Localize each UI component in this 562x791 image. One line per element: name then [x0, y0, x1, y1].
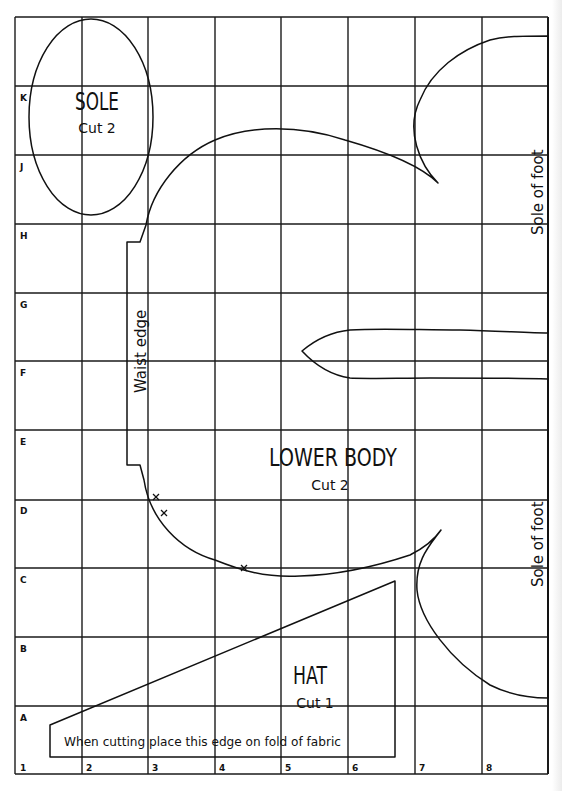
row-label-c: C	[20, 575, 27, 585]
row-label-f: F	[20, 368, 26, 378]
pattern-sheet: K J H G F E D C B A 1 2 3 4 5 6 7 8 SOLE…	[0, 0, 562, 791]
column-label-3: 3	[152, 763, 158, 773]
column-label-8: 8	[486, 763, 492, 773]
column-label-6: 6	[352, 763, 358, 773]
row-label-d: D	[20, 506, 27, 516]
lower-body-piece: LOWER BODY Cut 2 Waist edge Sole of foot…	[127, 36, 548, 698]
column-label-2: 2	[86, 763, 92, 773]
row-label-g: G	[20, 300, 27, 310]
column-label-1: 1	[20, 763, 26, 773]
row-label-j: J	[19, 162, 23, 172]
row-label-e: E	[20, 437, 26, 447]
row-label-a: A	[20, 713, 27, 723]
hat-piece: HAT Cut 1 When cutting place this edge o…	[50, 581, 395, 757]
lower-body-outline	[127, 36, 548, 698]
sole-outline	[29, 19, 153, 215]
row-label-k: K	[20, 93, 28, 103]
column-label-7: 7	[419, 763, 425, 773]
match-marks	[153, 494, 247, 571]
fold-instruction: When cutting place this edge on fold of …	[64, 734, 341, 749]
page-edge	[552, 0, 562, 791]
column-labels: 1 2 3 4 5 6 7 8	[20, 763, 492, 773]
waist-edge-label: Waist edge	[132, 310, 150, 393]
row-labels: K J H G F E D C B A	[19, 93, 28, 723]
row-label-h: H	[20, 231, 28, 241]
sole-title: SOLE	[75, 88, 119, 116]
sole-cut: Cut 2	[78, 120, 116, 136]
sole-of-foot-label-bottom: Sole of foot	[529, 501, 547, 587]
column-label-4: 4	[219, 763, 225, 773]
hat-outline	[50, 581, 395, 757]
column-label-5: 5	[285, 763, 291, 773]
lower-body-title: LOWER BODY	[269, 444, 397, 472]
hat-title: HAT	[293, 662, 327, 690]
hat-cut: Cut 1	[296, 695, 334, 711]
sole-piece: SOLE Cut 2	[29, 19, 153, 215]
sole-of-foot-label-top: Sole of foot	[529, 149, 547, 235]
row-label-b: B	[20, 644, 27, 654]
lower-body-cut: Cut 2	[311, 477, 349, 493]
